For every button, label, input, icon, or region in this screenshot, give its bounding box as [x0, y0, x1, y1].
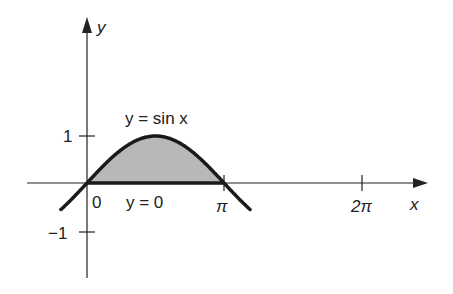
- sine-area-diagram: y x 1 −1 0 π 2π y = sin x y = 0: [0, 0, 453, 294]
- sine-curve-label: y = sin x: [125, 109, 188, 128]
- y-axis-arrow-icon: [82, 17, 92, 33]
- y-tick-label-1: 1: [63, 127, 72, 146]
- diagram-canvas: y x 1 −1 0 π 2π y = sin x y = 0: [0, 0, 453, 294]
- x-axis-arrow-icon: [413, 178, 428, 188]
- x-tick-label-2pi: 2π: [350, 197, 372, 216]
- y-tick-label-neg1: −1: [48, 224, 67, 243]
- x-axis-label: x: [409, 195, 419, 214]
- x-tick-label-0: 0: [92, 193, 101, 212]
- y-axis-label: y: [96, 18, 107, 37]
- x-tick-label-pi: π: [216, 197, 228, 216]
- baseline-label: y = 0: [126, 193, 163, 212]
